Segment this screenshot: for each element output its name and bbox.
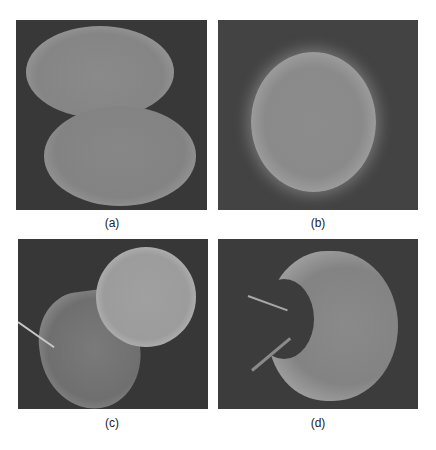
cell-lower-lobe [44,106,196,206]
panel-c-label: (c) [62,416,162,430]
cell-indentation [254,279,314,359]
spherical-cell [96,247,196,347]
cell-upper-lobe [26,26,174,118]
panel-c-image [18,239,208,409]
panel-b-label: (b) [268,216,368,230]
panel-b-image [218,20,418,210]
panel-a-label: (a) [62,216,162,230]
panel-d-image [218,239,418,409]
spherical-cell [251,52,376,192]
panel-d-label: (d) [268,416,368,430]
panel-a-image [16,20,207,210]
